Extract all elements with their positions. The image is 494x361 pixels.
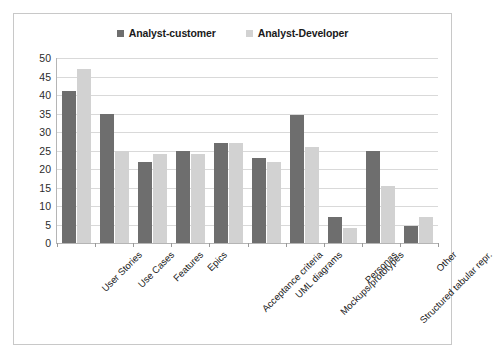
bar-group	[133, 58, 171, 243]
bar	[176, 151, 190, 244]
chart-legend: Analyst-customer Analyst-Developer	[14, 27, 451, 39]
x-axis-category-label: Features	[171, 249, 205, 283]
bar	[77, 69, 91, 243]
x-axis-tickmark	[133, 243, 134, 247]
bar-group	[171, 58, 209, 243]
legend-item-analyst-customer: Analyst-customer	[117, 27, 216, 39]
bar	[214, 143, 228, 243]
legend-item-analyst-developer: Analyst-Developer	[246, 27, 349, 39]
bar	[419, 217, 433, 243]
bar	[366, 151, 380, 244]
bar	[229, 143, 243, 243]
legend-swatch-analyst-developer	[246, 30, 253, 37]
bar	[138, 162, 152, 243]
bar-group	[57, 58, 95, 243]
bar	[267, 162, 281, 243]
bar-group	[362, 58, 400, 243]
bar	[153, 154, 167, 243]
bar	[62, 91, 76, 243]
x-axis-tickmark	[248, 243, 249, 247]
bar-group	[95, 58, 133, 243]
legend-label-analyst-developer: Analyst-Developer	[258, 27, 349, 39]
y-axis-tickmarks	[14, 58, 60, 243]
x-axis-category-label: Other	[434, 249, 459, 274]
bar-group	[286, 58, 324, 243]
bar	[252, 158, 266, 243]
bar-group	[248, 58, 286, 243]
bar-group	[324, 58, 362, 243]
bar	[115, 151, 129, 244]
bar	[191, 154, 205, 243]
bars-layer	[57, 58, 438, 243]
chart-frame: Analyst-customer Analyst-Developer 05101…	[13, 13, 452, 345]
bar	[328, 217, 342, 243]
x-axis-tickmark	[286, 243, 287, 247]
x-axis-tickmarks	[57, 243, 438, 248]
bar	[100, 114, 114, 244]
x-axis-tickmark	[324, 243, 325, 247]
bar	[343, 228, 357, 243]
x-axis-tickmark	[438, 243, 439, 247]
legend-swatch-analyst-customer	[117, 30, 124, 37]
x-axis-tickmark	[400, 243, 401, 247]
x-axis-tickmark	[171, 243, 172, 247]
bar	[381, 186, 395, 243]
x-axis-tickmark	[362, 243, 363, 247]
x-axis-tickmark	[209, 243, 210, 247]
bar-group	[209, 58, 247, 243]
x-axis-tickmark	[95, 243, 96, 247]
bar	[305, 147, 319, 243]
x-axis-category-label: User Stories	[99, 249, 144, 294]
x-axis-tickmark	[57, 243, 58, 247]
bar	[404, 226, 418, 243]
x-axis-category-label: Epics	[205, 249, 229, 273]
bar-group	[400, 58, 438, 243]
x-axis-category-labels: User StoriesUse CasesFeaturesEpicsAccept…	[57, 249, 438, 349]
x-axis-category-label: Structured tabular repr.	[417, 249, 493, 325]
bar	[290, 115, 304, 243]
plot-area	[57, 58, 438, 243]
legend-label-analyst-customer: Analyst-customer	[129, 27, 216, 39]
